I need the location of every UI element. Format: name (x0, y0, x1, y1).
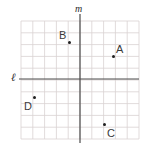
coordinate-grid-figure: m ℓ ABCD (0, 0, 147, 148)
axis-label-m: m (75, 4, 82, 14)
axis-label-l: ℓ (11, 72, 16, 83)
plotted-point-b (68, 41, 71, 44)
plotted-point-a (112, 55, 115, 58)
grid-canvas (0, 0, 147, 148)
point-label-c: C (107, 128, 115, 139)
plotted-point-c (103, 123, 106, 126)
point-label-d: D (24, 101, 32, 112)
point-label-a: A (116, 44, 123, 55)
plotted-point-d (33, 96, 36, 99)
point-label-b: B (59, 30, 66, 41)
